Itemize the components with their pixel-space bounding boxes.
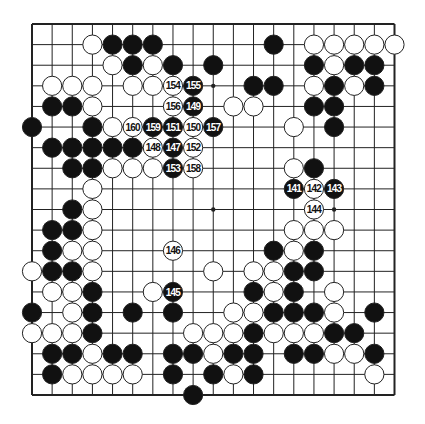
white-stone-move-152: 152 xyxy=(184,138,203,157)
black-stone-move-145: 145 xyxy=(163,282,182,301)
white-stone xyxy=(324,35,343,54)
black-stone-icon xyxy=(163,365,182,384)
black-stone-icon xyxy=(83,117,102,136)
white-stone-icon xyxy=(22,324,41,343)
black-stone-icon xyxy=(43,138,62,157)
black-stone-icon xyxy=(365,344,384,363)
white-stone-icon xyxy=(345,35,364,54)
black-stone xyxy=(304,159,323,178)
black-stone xyxy=(123,56,142,75)
black-stone-icon xyxy=(224,344,243,363)
black-stone-icon xyxy=(264,241,283,260)
white-stone-move-142: 142 xyxy=(304,179,323,198)
black-stone-move-151: 151 xyxy=(163,117,182,136)
white-stone-icon xyxy=(324,221,343,240)
move-number-label: 157 xyxy=(206,122,222,133)
black-stone xyxy=(244,344,263,363)
black-stone xyxy=(264,303,283,322)
white-stone-icon xyxy=(224,303,243,322)
black-stone xyxy=(224,344,243,363)
white-stone-icon xyxy=(83,344,102,363)
white-stone-icon xyxy=(43,324,62,343)
black-stone-icon xyxy=(244,282,263,301)
black-stone-icon xyxy=(103,138,122,157)
move-number-label: 156 xyxy=(166,101,182,112)
white-stone-icon xyxy=(324,303,343,322)
white-stone xyxy=(103,117,122,136)
black-stone xyxy=(284,303,303,322)
white-stone xyxy=(264,282,283,301)
white-stone-icon xyxy=(143,56,162,75)
black-stone xyxy=(43,221,62,240)
black-stone xyxy=(163,56,182,75)
black-stone-icon xyxy=(304,303,323,322)
black-stone xyxy=(63,344,82,363)
star-point-icon xyxy=(211,207,215,211)
white-stone xyxy=(83,35,102,54)
white-stone-icon xyxy=(345,76,364,95)
white-stone-icon xyxy=(83,76,102,95)
black-stone-icon xyxy=(43,344,62,363)
black-stone-icon xyxy=(284,303,303,322)
black-stone xyxy=(345,324,364,343)
white-stone xyxy=(224,365,243,384)
white-stone xyxy=(324,56,343,75)
white-stone xyxy=(184,324,203,343)
white-stone xyxy=(204,324,223,343)
white-stone xyxy=(264,324,283,343)
white-stone-icon xyxy=(284,241,303,260)
move-number-label: 155 xyxy=(186,80,202,91)
black-stone xyxy=(83,282,102,301)
white-stone xyxy=(143,282,162,301)
white-stone xyxy=(304,76,323,95)
white-stone-icon xyxy=(244,303,263,322)
black-stone-icon xyxy=(264,303,283,322)
white-stone xyxy=(123,76,142,95)
white-stone xyxy=(324,221,343,240)
white-stone xyxy=(83,262,102,281)
white-stone xyxy=(284,221,303,240)
black-stone-icon xyxy=(304,241,323,260)
white-stone-move-160: 160 xyxy=(123,117,142,136)
black-stone xyxy=(22,303,41,322)
white-stone xyxy=(63,282,82,301)
white-stone-icon xyxy=(103,56,122,75)
white-stone-icon xyxy=(22,262,41,281)
black-stone xyxy=(365,56,384,75)
black-stone xyxy=(324,324,343,343)
move-number-label: 142 xyxy=(307,183,323,194)
white-stone xyxy=(224,97,243,116)
white-stone-icon xyxy=(83,365,102,384)
black-stone xyxy=(184,385,203,404)
black-stone-icon xyxy=(83,324,102,343)
black-stone-icon xyxy=(244,344,263,363)
white-stone xyxy=(83,241,102,260)
white-stone-icon xyxy=(224,97,243,116)
black-stone xyxy=(345,56,364,75)
black-stone-icon xyxy=(284,282,303,301)
white-stone xyxy=(143,76,162,95)
white-stone xyxy=(244,262,263,281)
black-stone-icon xyxy=(83,282,102,301)
white-stone xyxy=(264,262,283,281)
black-stone xyxy=(143,35,162,54)
white-stone xyxy=(43,324,62,343)
black-stone xyxy=(123,35,142,54)
black-stone-icon xyxy=(43,262,62,281)
black-stone xyxy=(244,76,263,95)
black-stone xyxy=(123,138,142,157)
black-stone xyxy=(324,97,343,116)
move-number-label: 158 xyxy=(186,163,202,174)
black-stone-icon xyxy=(264,35,283,54)
black-stone xyxy=(284,282,303,301)
white-stone-icon xyxy=(244,97,263,116)
white-stone xyxy=(83,344,102,363)
white-stone xyxy=(83,200,102,219)
white-stone-icon xyxy=(83,200,102,219)
white-stone-icon xyxy=(284,221,303,240)
white-stone xyxy=(284,324,303,343)
white-stone-icon xyxy=(123,76,142,95)
black-stone xyxy=(284,262,303,281)
black-stone-move-157: 157 xyxy=(204,117,223,136)
white-stone-icon xyxy=(365,35,384,54)
